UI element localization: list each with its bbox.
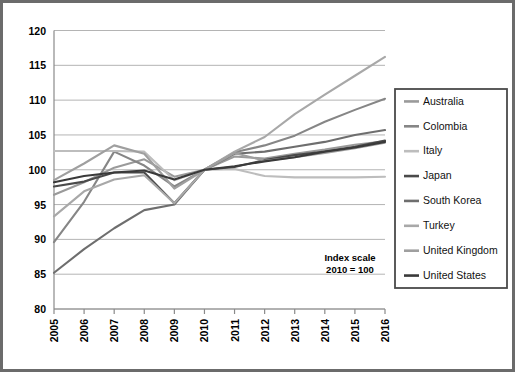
legend-label-south-korea[interactable]: South Korea [423,194,482,206]
data-series-lines [54,57,385,273]
y-tick-label-80: 80 [34,303,46,315]
y-tick-label-100: 100 [28,164,46,176]
y-axis-tick-labels: 80859095100105110115120 [28,25,46,316]
x-tick-label-2013: 2013 [289,319,301,343]
x-tick-label-2006: 2006 [78,319,90,343]
series-line-turkey [54,57,385,216]
y-tick-label-85: 85 [34,268,46,280]
legend-label-australia[interactable]: Australia [423,95,464,107]
y-tick-label-110: 110 [29,94,46,106]
chart-figure: 80859095100105110115120 2005200620072008… [0,0,515,372]
x-tick-label-2015: 2015 [349,319,361,343]
x-axis-tick-labels: 2005200620072008200920102011201220132014… [48,319,391,343]
x-tick-label-2008: 2008 [138,319,150,343]
line-chart-svg: 80859095100105110115120 2005200620072008… [3,3,515,372]
legend-label-united-kingdom[interactable]: United Kingdom [423,244,498,256]
legend-label-italy[interactable]: Italy [423,144,443,156]
x-tick-label-2010: 2010 [198,319,210,343]
legend-label-united-states[interactable]: United States [423,269,486,281]
y-tick-label-115: 115 [29,59,46,71]
y-tick-label-105: 105 [28,129,46,141]
legend-label-japan[interactable]: Japan [423,169,452,181]
legend-label-colombia[interactable]: Colombia [423,120,468,132]
y-tick-label-95: 95 [34,199,46,211]
x-tick-label-2007: 2007 [108,319,120,343]
x-tick-label-2012: 2012 [259,319,271,343]
legend-label-turkey[interactable]: Turkey [423,219,455,231]
annotation-line-1: Index scale [324,252,375,263]
x-tick-label-2014: 2014 [319,319,331,343]
y-tick-label-90: 90 [34,233,46,245]
x-tick-label-2009: 2009 [168,319,180,343]
y-tick-label-120: 120 [28,25,46,37]
x-tick-label-2016: 2016 [379,319,391,343]
chart-legend: AustraliaColombiaItalyJapanSouth KoreaTu… [395,89,507,288]
index-scale-annotation: Index scale 2010 = 100 [324,252,375,275]
annotation-line-2: 2010 = 100 [326,264,374,275]
x-tick-label-2005: 2005 [48,319,60,343]
x-tick-label-2011: 2011 [229,319,241,342]
